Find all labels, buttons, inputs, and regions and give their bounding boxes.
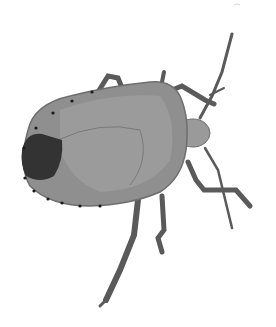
shield-bug-photo [0,0,276,327]
